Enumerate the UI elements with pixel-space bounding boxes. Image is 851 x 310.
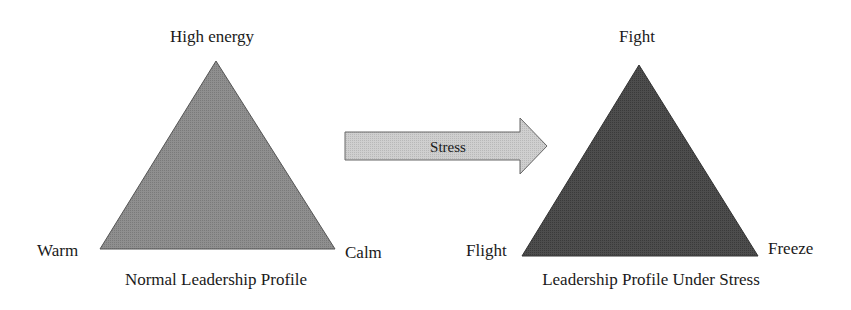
stress-label: Stress bbox=[430, 140, 466, 155]
high-energy-label: High energy bbox=[170, 28, 254, 45]
calm-label: Calm bbox=[345, 244, 382, 261]
freeze-label: Freeze bbox=[768, 240, 813, 257]
warm-label: Warm bbox=[37, 242, 78, 259]
normal-profile-title: Normal Leadership Profile bbox=[125, 271, 307, 288]
stress-profile-triangle bbox=[522, 65, 758, 256]
normal-profile-triangle bbox=[100, 61, 335, 249]
stress-profile-title: Leadership Profile Under Stress bbox=[542, 271, 760, 288]
diagram-canvas bbox=[0, 0, 851, 310]
fight-label: Fight bbox=[619, 28, 655, 45]
flight-label: Flight bbox=[466, 242, 507, 259]
